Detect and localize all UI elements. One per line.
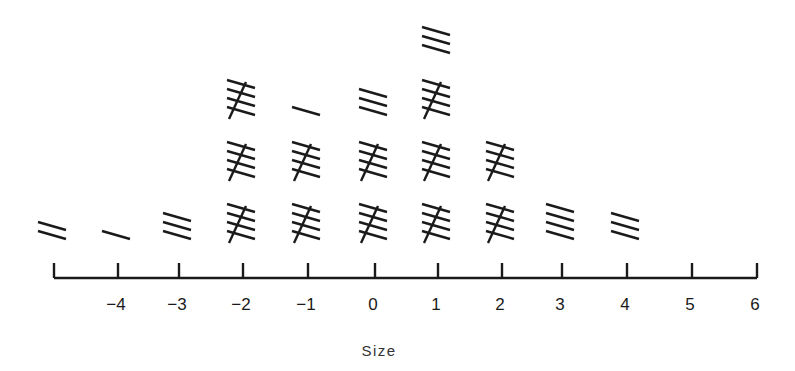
tally-stroke: [546, 222, 574, 230]
tally-stroke: [422, 98, 450, 106]
tally-stroke: [486, 222, 514, 230]
tally-stroke: [163, 231, 191, 239]
tally-group: [292, 204, 320, 243]
tally-stroke: [359, 222, 387, 230]
tally-stroke: [422, 222, 450, 230]
x-axis: [54, 263, 757, 278]
x-tick-label: −3: [167, 295, 186, 314]
tally-stroke: [292, 107, 320, 115]
tally-group: [486, 204, 514, 243]
x-tick-label: 5: [685, 295, 694, 314]
tally-group: [611, 213, 639, 239]
tally-stroke: [359, 204, 387, 212]
tally-stroke: [292, 222, 320, 230]
tally-stroke: [422, 27, 450, 35]
x-tick-label: 1: [431, 295, 440, 314]
tally-stroke: [422, 204, 450, 212]
x-tick-label: −4: [106, 295, 125, 314]
tally-group: [359, 142, 387, 181]
tally-stroke: [227, 160, 255, 168]
tally-group: [422, 80, 450, 119]
tally-group: [102, 231, 130, 239]
x-axis-tick-labels: −4−3−2−10123456: [106, 295, 759, 314]
tally-stroke: [359, 160, 387, 168]
tally-group: [546, 204, 574, 239]
tally-stroke: [359, 98, 387, 106]
tally-stroke: [227, 80, 255, 88]
tally-stroke: [102, 231, 130, 239]
tally-group: [359, 204, 387, 243]
tally-stroke: [422, 160, 450, 168]
tally-group: [292, 142, 320, 181]
tally-stroke: [486, 160, 514, 168]
tally-stroke: [292, 142, 320, 150]
tally-stroke: [546, 231, 574, 239]
tally-stroke: [292, 160, 320, 168]
tally-group: [227, 204, 255, 243]
tally-group: [227, 142, 255, 181]
tally-group: [292, 107, 320, 115]
tally-stroke: [546, 213, 574, 221]
tally-stroke: [611, 222, 639, 230]
x-tick-label: 4: [620, 295, 629, 314]
tally-stroke: [163, 213, 191, 221]
tally-stroke: [422, 142, 450, 150]
tally-marks: [38, 27, 639, 243]
tally-stroke: [486, 204, 514, 212]
tally-chart: −4−3−2−10123456 Size: [0, 0, 795, 371]
tally-group: [359, 89, 387, 115]
tally-stroke: [422, 45, 450, 53]
x-axis-title: Size: [361, 342, 396, 359]
tally-stroke: [422, 36, 450, 44]
tally-group: [38, 222, 66, 239]
tally-group: [227, 80, 255, 119]
tally-group: [422, 27, 450, 53]
tally-stroke: [359, 89, 387, 97]
x-tick-label: 2: [495, 295, 504, 314]
x-tick-label: −1: [296, 295, 315, 314]
tally-stroke: [292, 204, 320, 212]
tally-stroke: [163, 222, 191, 230]
tally-stroke: [611, 231, 639, 239]
x-tick-label: 6: [750, 295, 759, 314]
tally-stroke: [38, 222, 66, 230]
x-tick-label: −2: [231, 295, 250, 314]
tally-stroke: [227, 222, 255, 230]
tally-stroke: [227, 98, 255, 106]
tally-stroke: [38, 231, 66, 239]
tally-stroke: [227, 204, 255, 212]
tally-stroke: [546, 204, 574, 212]
x-tick-label: 0: [368, 295, 377, 314]
tally-group: [422, 204, 450, 243]
tally-stroke: [486, 142, 514, 150]
tally-stroke: [611, 213, 639, 221]
tally-group: [422, 142, 450, 181]
tally-group: [486, 142, 514, 181]
tally-group: [163, 213, 191, 239]
tally-stroke: [227, 142, 255, 150]
x-tick-label: 3: [555, 295, 564, 314]
tally-stroke: [422, 80, 450, 88]
tally-stroke: [359, 142, 387, 150]
tally-stroke: [359, 107, 387, 115]
